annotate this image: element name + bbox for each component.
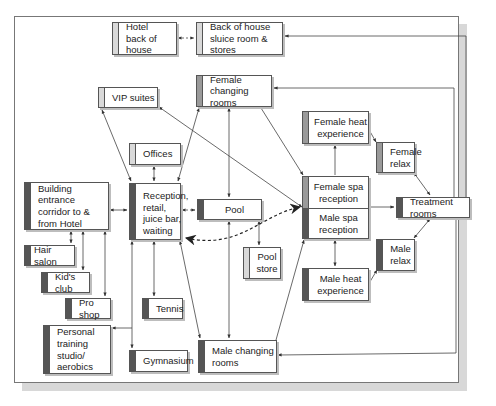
node-label: Back of house sluice room & stores	[207, 21, 282, 56]
node-bar	[198, 200, 204, 219]
node-gymnasium: Gymnasium	[129, 350, 188, 372]
node-label: VIP suites	[109, 92, 155, 104]
node-bar	[397, 198, 403, 217]
node-personal-training: Personal training studio/ aerobics	[43, 325, 111, 374]
node-label: Hair salon	[31, 244, 74, 267]
node-label: Kid's club	[52, 271, 89, 294]
node-label: Pro shop	[76, 297, 110, 320]
node-label: Female heat experience	[313, 116, 368, 139]
node-hotel-back-of-house: Hotel back of house	[112, 22, 177, 55]
node-vip-suites: VIP suites	[98, 87, 158, 108]
node-pro-shop: Pro shop	[65, 298, 111, 319]
node-bar	[197, 23, 203, 54]
node-hair-salon: Hair salon	[24, 245, 75, 266]
node-label: Reception, retail, juice bar, waiting	[140, 190, 188, 236]
node-bar	[303, 269, 309, 300]
node-female-heat-experience: Female heat experience	[302, 111, 369, 144]
node-label: Tennis	[153, 303, 183, 315]
node-bar	[44, 326, 50, 373]
node-label: Gymnasium	[140, 355, 194, 367]
node-female-changing-rooms: Female changing rooms	[196, 75, 272, 107]
node-bar	[303, 112, 309, 143]
diagram-canvas: Hotel back of house Back of house sluice…	[0, 0, 496, 406]
node-bar	[25, 246, 31, 265]
node-bar	[25, 183, 31, 229]
node-female-spa-reception: Female spa reception	[309, 181, 368, 204]
node-bar	[130, 351, 136, 371]
node-bar	[377, 143, 383, 172]
node-bar	[99, 88, 105, 107]
node-bar	[197, 76, 203, 106]
node-label: Male changing rooms	[209, 345, 274, 368]
node-bar	[66, 299, 72, 318]
node-bar	[244, 248, 250, 278]
node-bar	[130, 184, 136, 239]
node-label: Pool store	[254, 251, 280, 274]
node-bar	[377, 240, 383, 270]
node-label: Male relax	[387, 243, 414, 266]
spa-divider	[309, 208, 368, 209]
node-label: Hotel back of house	[123, 21, 176, 56]
node-back-of-house-sluice: Back of house sluice room & stores	[196, 22, 283, 55]
node-label: Female relax	[387, 146, 422, 169]
node-bar	[143, 299, 149, 318]
node-label: Offices	[140, 148, 172, 160]
node-reception: Reception, retail, juice bar, waiting	[129, 183, 181, 240]
node-pool-store: Pool store	[243, 247, 281, 279]
node-male-relax: Male relax	[376, 239, 415, 271]
node-label: Male heat experience	[313, 273, 368, 296]
node-offices: Offices	[129, 143, 181, 165]
node-label: Treatment rooms	[407, 196, 469, 219]
node-tennis: Tennis	[142, 298, 183, 319]
node-label: Pool	[208, 204, 261, 216]
node-male-changing-rooms: Male changing rooms	[198, 340, 277, 373]
node-spa-reception: Female spa reception Male spa reception	[302, 176, 369, 239]
node-male-heat-experience: Male heat experience	[302, 268, 369, 301]
node-building-entrance: Building entrance corridor to & from Hot…	[24, 182, 109, 230]
node-male-spa-reception: Male spa reception	[309, 212, 368, 235]
node-bar	[42, 273, 48, 292]
node-label: Personal training studio/ aerobics	[54, 326, 110, 372]
node-bar	[130, 144, 136, 164]
node-bar	[113, 23, 119, 54]
node-pool: Pool	[197, 199, 262, 220]
node-female-relax: Female relax	[376, 142, 415, 173]
node-treatment-rooms: Treatment rooms	[396, 197, 470, 218]
node-label: Building entrance corridor to & from Hot…	[35, 183, 108, 229]
node-kids-club: Kid's club	[41, 272, 90, 293]
node-bar	[199, 341, 205, 372]
node-label: Female changing rooms	[207, 74, 271, 109]
